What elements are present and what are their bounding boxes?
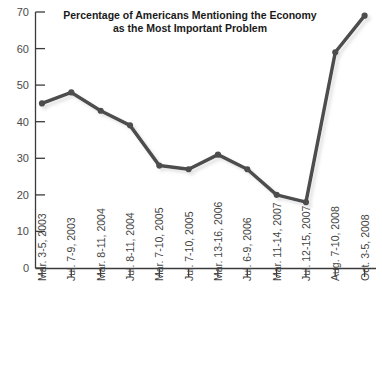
y-tick-label-60: 60 [17, 43, 29, 55]
y-tick-label-30: 30 [17, 152, 29, 164]
chart-background [0, 0, 382, 369]
y-tick-label-70: 70 [17, 6, 29, 18]
data-point-11 [362, 13, 368, 19]
y-tick-label-0: 0 [23, 262, 29, 274]
chart-title-line-1: Percentage of Americans Mentioning the E… [63, 9, 317, 21]
x-tick-label-6: Mar. 13-16, 2006 [212, 201, 224, 281]
data-point-8 [274, 192, 280, 198]
y-tick-label-10: 10 [17, 225, 29, 237]
data-point-1 [68, 89, 74, 95]
x-tick-label-4: Mar. 7-10, 2005 [153, 207, 165, 281]
x-tick-label-1: Jul. 7-9, 2003 [65, 217, 77, 281]
x-tick-label-11: Oct. 3-5, 2008 [359, 214, 371, 281]
x-tick-label-5: Jul. 7-10, 2005 [183, 211, 195, 281]
x-tick-label-0: Mar. 3-5, 2003 [36, 213, 48, 281]
data-point-5 [186, 166, 192, 172]
economy-mention-line-chart: Percentage of Americans Mentioning the E… [0, 0, 382, 369]
data-point-6 [215, 152, 221, 158]
data-point-2 [98, 108, 104, 114]
x-tick-label-7: Jul. 6-9, 2006 [241, 217, 253, 281]
y-tick-label-50: 50 [17, 79, 29, 91]
data-point-0 [39, 100, 45, 106]
x-tick-label-9: Jul. 12-15, 2007 [300, 206, 312, 281]
x-tick-label-8: Mar. 11-14, 2007 [271, 202, 283, 281]
y-tick-label-20: 20 [17, 189, 29, 201]
data-point-9 [303, 199, 309, 205]
chart-container: Percentage of Americans Mentioning the E… [0, 0, 382, 369]
data-point-10 [332, 49, 338, 55]
x-tick-label-3: Jul. 8-11, 2004 [124, 212, 136, 281]
chart-title-line-2: as the Most Important Problem [113, 22, 267, 34]
y-tick-label-40: 40 [17, 116, 29, 128]
x-tick-label-2: Mar. 8-11, 2004 [95, 208, 107, 281]
data-point-4 [156, 163, 162, 169]
data-point-3 [127, 122, 133, 128]
x-tick-label-10: Aug. 7-10, 2008 [329, 206, 341, 281]
data-point-7 [244, 166, 250, 172]
